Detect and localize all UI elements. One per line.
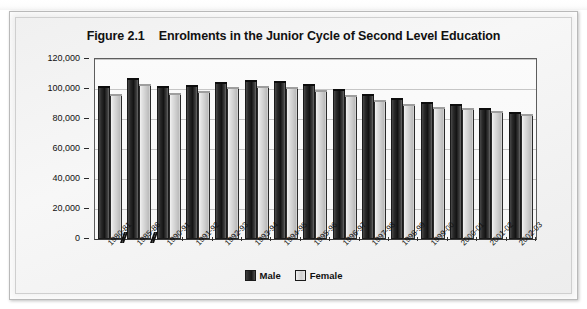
bar-series-container	[95, 59, 536, 239]
bar-male[interactable]	[245, 80, 257, 239]
bar-top-cap	[257, 86, 269, 88]
bar-group	[479, 59, 503, 239]
page-top-edge	[0, 0, 587, 10]
bar-male[interactable]	[391, 98, 403, 239]
y-axis-tick-label: 80,000	[52, 113, 80, 123]
bar-top-cap	[127, 78, 139, 80]
bar-group	[333, 59, 357, 239]
bar-male[interactable]	[421, 102, 433, 239]
bar-female[interactable]	[139, 84, 151, 239]
bar-group	[509, 59, 533, 239]
chart-legend: Male Female	[16, 270, 571, 281]
x-axis-tick-mark	[182, 237, 183, 241]
bar-top-cap	[157, 86, 169, 88]
bar-female[interactable]	[169, 93, 181, 239]
y-axis-tick-mark	[84, 148, 89, 149]
x-axis-tick-mark	[506, 237, 507, 241]
y-axis-tick-label: 60,000	[52, 143, 80, 153]
bar-female[interactable]	[491, 111, 503, 239]
bar-top-cap	[169, 93, 181, 95]
bar-top-cap	[403, 104, 415, 106]
bar-group	[186, 59, 210, 239]
bar-top-cap	[462, 108, 474, 110]
axis-break-icon	[121, 232, 126, 243]
bar-top-cap	[345, 95, 357, 97]
bar-female[interactable]	[257, 86, 269, 239]
bar-female[interactable]	[462, 108, 474, 239]
legend-item-male: Male	[245, 270, 281, 281]
bar-top-cap	[245, 80, 257, 82]
y-axis-tick-label: 100,000	[47, 83, 80, 93]
bar-group	[215, 59, 239, 239]
x-axis-tick-mark	[212, 237, 213, 241]
bar-male[interactable]	[509, 112, 521, 240]
bar-top-cap	[227, 87, 239, 89]
bar-female[interactable]	[227, 87, 239, 239]
x-axis-tick-mark	[329, 237, 330, 241]
bar-top-cap	[110, 94, 122, 96]
bar-female[interactable]	[286, 87, 298, 239]
bar-top-cap	[374, 100, 386, 102]
bar-group	[98, 59, 122, 239]
y-axis-tick-label: 0	[75, 233, 80, 243]
bar-group	[245, 59, 269, 239]
bar-female[interactable]	[433, 107, 445, 239]
bar-top-cap	[433, 107, 445, 109]
y-axis-tick-mark	[84, 118, 89, 119]
x-axis-tick-mark	[241, 237, 242, 241]
bar-female[interactable]	[110, 94, 122, 239]
y-axis-labels: 020,00040,00060,00080,000100,000120,000	[16, 58, 89, 238]
bar-male[interactable]	[215, 82, 227, 239]
plot-area	[94, 58, 537, 240]
x-axis-tick-mark	[359, 237, 360, 241]
bar-top-cap	[509, 112, 521, 114]
bar-male[interactable]	[127, 78, 139, 239]
y-axis-tick-label: 40,000	[52, 173, 80, 183]
bar-group	[157, 59, 181, 239]
axis-break-icon	[151, 232, 156, 243]
bar-group	[421, 59, 445, 239]
bar-female[interactable]	[374, 100, 386, 240]
bar-top-cap	[286, 87, 298, 89]
bar-top-cap	[333, 89, 345, 91]
bar-female[interactable]	[345, 95, 357, 239]
y-axis-tick-mark	[84, 238, 89, 239]
bar-group	[362, 59, 386, 239]
x-axis-tick-mark	[535, 237, 536, 241]
x-axis-tick-mark	[388, 237, 389, 241]
bar-female[interactable]	[315, 90, 327, 239]
bar-group	[303, 59, 327, 239]
x-axis-tick-mark	[270, 237, 271, 241]
y-axis-tick-label: 20,000	[52, 203, 80, 213]
legend-swatch-male-icon	[245, 270, 256, 281]
bar-female[interactable]	[521, 114, 533, 239]
bar-top-cap	[491, 111, 503, 113]
legend-label-male: Male	[260, 270, 281, 281]
bar-male[interactable]	[479, 108, 491, 239]
y-axis-tick-mark	[84, 208, 89, 209]
x-axis-tick-mark	[300, 237, 301, 241]
bar-top-cap	[421, 102, 433, 104]
y-axis-tick-label: 120,000	[47, 53, 80, 63]
x-axis-tick-mark	[476, 237, 477, 241]
bar-top-cap	[391, 98, 403, 100]
bar-male[interactable]	[274, 81, 286, 239]
y-axis-tick-mark	[84, 58, 89, 59]
bar-male[interactable]	[362, 94, 374, 240]
figure-inner-panel: Figure 2.1Enrolments in the Junior Cycle…	[15, 17, 572, 294]
bar-female[interactable]	[198, 91, 210, 240]
bar-male[interactable]	[333, 89, 345, 239]
bar-top-cap	[303, 84, 315, 86]
bar-group	[274, 59, 298, 239]
bar-male[interactable]	[303, 84, 315, 239]
bar-male[interactable]	[98, 86, 110, 239]
bar-male[interactable]	[157, 86, 169, 239]
bar-top-cap	[186, 85, 198, 87]
bar-male[interactable]	[186, 85, 198, 239]
bar-top-cap	[450, 104, 462, 106]
chart-plot-wrapper: 020,00040,00060,00080,000100,000120,000 …	[16, 18, 571, 293]
bar-top-cap	[139, 84, 151, 86]
bar-top-cap	[521, 114, 533, 116]
bar-male[interactable]	[450, 104, 462, 239]
bar-female[interactable]	[403, 104, 415, 239]
